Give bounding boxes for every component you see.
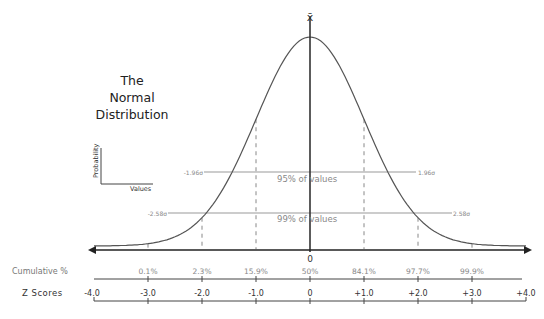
- title-line-3: Distribution: [82, 106, 182, 123]
- center-zero-label: 0: [307, 254, 313, 264]
- cumulative-percent-label: 99.9%: [460, 267, 484, 276]
- z-score-label: -3.0: [140, 289, 156, 298]
- normal-distribution-diagram: x̄ 0 Probability Values 95% of values 99…: [0, 0, 544, 319]
- inner-left-sigma: -1.96σ: [184, 169, 204, 176]
- legend-y-label: Probability: [92, 143, 100, 178]
- z-score-label: -2.0: [194, 289, 210, 298]
- cumulative-percent-label: 84.1%: [352, 267, 376, 276]
- cumulative-percent-label: 2.3%: [192, 267, 211, 276]
- inner-interval-label: 95% of values: [277, 174, 338, 184]
- title-line-1: The: [82, 72, 182, 89]
- z-score-label: +2.0: [408, 289, 427, 298]
- mean-symbol: x̄: [307, 11, 314, 24]
- cumulative-percent-label: 0.1%: [138, 267, 157, 276]
- z-scores-row-label: Z Scores: [22, 288, 63, 298]
- inner-right-sigma: 1.96σ: [418, 169, 435, 176]
- outer-right-sigma: 2.58σ: [453, 210, 470, 217]
- cumulative-percent-label: 15.9%: [244, 267, 268, 276]
- cumulative-percent-label: 97.7%: [406, 267, 430, 276]
- title-line-2: Normal: [82, 89, 182, 106]
- z-score-label: +4.0: [516, 289, 535, 298]
- cumulative-percent-label: 50%: [302, 267, 319, 276]
- z-score-label: +1.0: [354, 289, 373, 298]
- z-score-label: -4.0: [84, 289, 100, 298]
- z-score-label: 0: [307, 289, 312, 298]
- z-score-label: -1.0: [248, 289, 264, 298]
- cumulative-row-label: Cumulative %: [12, 267, 68, 276]
- legend-x-label: Values: [130, 185, 152, 193]
- z-score-label: +3.0: [462, 289, 481, 298]
- legend-axes: [101, 148, 153, 184]
- outer-left-sigma: -2.58σ: [148, 210, 168, 217]
- outer-interval-label: 99% of values: [277, 214, 338, 224]
- diagram-title: The Normal Distribution: [82, 72, 182, 123]
